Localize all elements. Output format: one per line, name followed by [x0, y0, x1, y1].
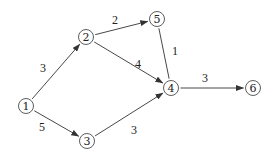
node-2: 2 [79, 30, 94, 45]
edges-layer: 3524133 [32, 13, 243, 137]
node-6: 6 [246, 81, 261, 96]
edge-weight-label: 3 [202, 71, 208, 85]
edge-3-4 [95, 93, 163, 136]
edge-weight-label: 3 [40, 61, 46, 75]
graph-diagram: 3524133 123456 [0, 0, 272, 159]
edge-weight-label: 4 [135, 57, 141, 71]
node-label: 2 [83, 31, 90, 44]
node-1: 1 [19, 99, 34, 114]
node-label: 3 [84, 135, 91, 148]
edge-weight-label: 2 [112, 13, 118, 27]
node-label: 5 [154, 13, 161, 26]
edge-weight-label: 1 [172, 44, 178, 58]
node-4: 4 [164, 81, 179, 96]
edge-2-4 [94, 42, 163, 83]
edge-weight-label: 3 [131, 123, 137, 137]
nodes-layer: 123456 [19, 12, 261, 149]
edge-5-4 [159, 28, 169, 78]
edge-weight-label: 5 [39, 120, 45, 134]
edge-2-5 [95, 21, 148, 34]
node-label: 6 [250, 82, 257, 95]
node-3: 3 [80, 134, 95, 149]
node-label: 4 [168, 82, 175, 95]
node-5: 5 [150, 12, 165, 27]
graph-svg: 3524133 123456 [0, 0, 272, 159]
node-label: 1 [23, 100, 30, 113]
